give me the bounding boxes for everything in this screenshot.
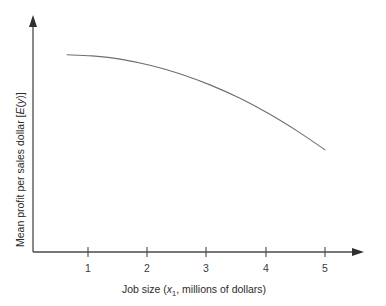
x-tick-label-2: 2 [144, 262, 150, 274]
chart-figure: 1 2 3 4 5 Job size (x1, millions of doll… [0, 0, 386, 306]
x-axis-title-prefix: Job size ( [122, 283, 167, 295]
x-axis-title-suffix: , millions of dollars) [176, 283, 266, 295]
chart-background [0, 0, 386, 306]
x-tick-label-1: 1 [85, 262, 91, 274]
y-axis-title-close: )] [14, 92, 26, 98]
x-tick-label-5: 5 [322, 262, 328, 274]
y-axis-title: Mean profit per sales dollar [E(y)] [14, 92, 26, 247]
x-tick-label-4: 4 [263, 262, 269, 274]
x-tick-label-3: 3 [203, 262, 209, 274]
y-axis-title-prefix: Mean profit per sales dollar [ [14, 114, 26, 247]
